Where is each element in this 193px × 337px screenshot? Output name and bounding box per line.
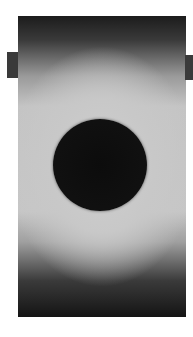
right-edge-tab	[185, 55, 193, 80]
dark-disc	[53, 119, 147, 211]
